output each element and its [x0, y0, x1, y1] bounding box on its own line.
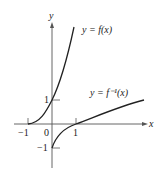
x-tick-label-neg1: −1 — [18, 127, 29, 138]
y-axis-arrow-icon — [50, 22, 54, 28]
function-inverse-diagram: x y −1 0 1 1 −1 y = f(x) y = f⁻¹(x) — [0, 0, 158, 177]
x-axis: x — [14, 118, 154, 129]
curve-f-label: y = f(x) — [81, 24, 113, 36]
x-axis-arrow-icon — [142, 122, 148, 126]
curve-f — [28, 27, 74, 124]
curve-f-inverse-label: y = f⁻¹(x) — [89, 87, 129, 99]
x-tick-label-1: 1 — [73, 127, 78, 138]
y-tick-label-1: 1 — [44, 94, 49, 105]
x-ticks: −1 0 1 — [18, 118, 78, 138]
y-ticks: 1 −1 — [37, 94, 60, 153]
x-axis-label: x — [148, 118, 154, 129]
y-axis-label: y — [48, 10, 54, 21]
x-tick-label-0: 0 — [44, 127, 49, 138]
y-tick-label-neg1: −1 — [37, 142, 48, 153]
